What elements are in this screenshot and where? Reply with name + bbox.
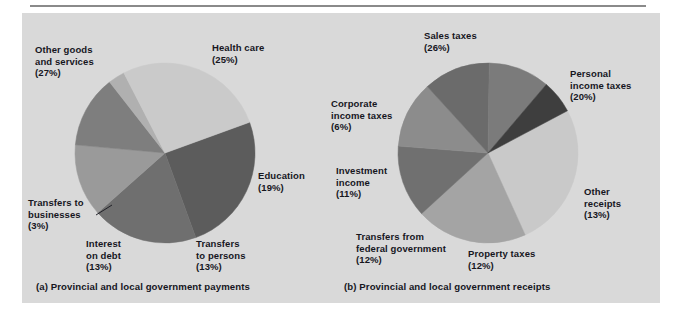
label-investment-income: Investment income (11%): [336, 165, 387, 200]
label-property-taxes: Property taxes (12%): [468, 248, 535, 271]
label-health-care: Health care (25%): [212, 42, 264, 65]
label-transfers-from-federal-government: Transfers from federal government (12%): [356, 231, 446, 266]
label-other-goods-and-services: Other goods and services (27%): [35, 44, 94, 79]
figure-root: Other goods and services (27%) Health ca…: [0, 0, 676, 318]
label-transfers-to-businesses: Transfers to businesses (3%): [28, 197, 84, 232]
label-education: Education (19%): [258, 170, 305, 193]
pie-receipts: [398, 63, 578, 243]
label-other-receipts: Other receipts (13%): [584, 186, 621, 221]
label-interest-on-debt: Interest on debt (13%): [86, 238, 121, 273]
caption-right-chart: (b) Provincial and local government rece…: [344, 281, 550, 292]
label-sales-taxes: Sales taxes (26%): [424, 30, 477, 53]
label-corporate-income-taxes: Corporate income taxes (6%): [331, 98, 392, 133]
caption-left-chart: (a) Provincial and local government paym…: [36, 281, 250, 292]
label-personal-income-taxes: Personal income taxes (20%): [570, 68, 631, 103]
pie-payments: [75, 63, 255, 243]
label-transfers-to-persons: Transfers to persons (13%): [196, 238, 246, 273]
